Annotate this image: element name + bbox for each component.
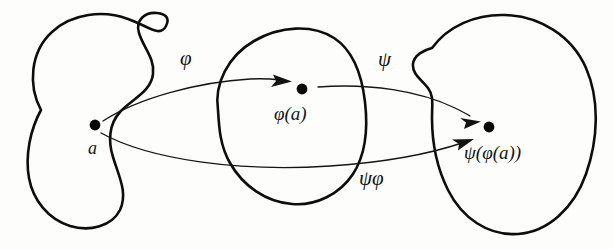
arrow-psi-path — [318, 86, 470, 116]
arrow-psi-phi-path — [101, 133, 462, 168]
point-label-phi-a: φ(a) — [274, 104, 307, 123]
function-composition-diagram: φ ψ ψφ a φ(a) ψ(φ(a)) — [0, 0, 613, 249]
arrow-phi-path — [103, 79, 280, 121]
point-psi-phi-a-dot — [484, 122, 495, 133]
arrow-label-phi: φ — [180, 48, 192, 69]
point-a-dot — [90, 120, 101, 131]
point-phi-a-dot — [297, 84, 308, 95]
diagram-canvas — [0, 0, 613, 249]
target-set-outline — [413, 15, 596, 234]
arrow-phi-head — [271, 75, 292, 88]
arrow-psi-head — [460, 118, 481, 129]
arrow-label-psi-phi: ψφ — [359, 168, 384, 189]
point-label-a: a — [88, 139, 97, 157]
arrow-label-psi: ψ — [378, 49, 391, 70]
point-label-psi-phi-a: ψ(φ(a)) — [464, 143, 521, 162]
